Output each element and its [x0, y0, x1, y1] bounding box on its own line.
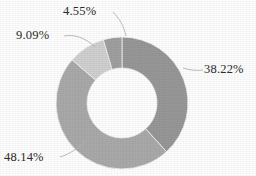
leader-line-38-22: [183, 68, 203, 70]
slice-label-9-09: 9.09%: [16, 28, 49, 43]
slice-label-38-22: 38.22%: [204, 62, 244, 77]
slice-label-4-55: 4.55%: [63, 4, 96, 19]
slice-label-48-14: 48.14%: [4, 150, 44, 165]
donut-slice-38-22-[interactable]: [122, 37, 188, 152]
leader-line-4-55: [113, 12, 126, 36]
donut-chart-page: 38.22% 48.14% 9.09% 4.55%: [0, 0, 256, 176]
